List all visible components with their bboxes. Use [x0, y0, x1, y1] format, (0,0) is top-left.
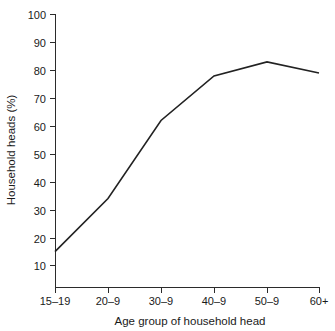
x-tick-label: 20–9	[96, 295, 120, 307]
x-tick-label: 50–9	[255, 295, 279, 307]
y-tick-label: 30	[34, 205, 46, 217]
x-tick-label: 30–9	[149, 295, 173, 307]
y-tick-label: 50	[34, 149, 46, 161]
y-tick-label: 80	[34, 65, 46, 77]
chart-plot-area: 100 90 80 70 60 50 40 30 20 10 15–19 20–…	[0, 0, 335, 331]
x-axis-title: Age group of household head	[115, 315, 266, 327]
x-tick-label: 15–19	[40, 295, 71, 307]
y-tick-label: 10	[34, 260, 46, 272]
line-chart-figure: 100 90 80 70 60 50 40 30 20 10 15–19 20–…	[0, 0, 335, 331]
y-tick-label: 20	[34, 233, 46, 245]
y-tick-label: 40	[34, 177, 46, 189]
y-tick-label: 90	[34, 37, 46, 49]
y-axis-title: Household heads (%)	[5, 95, 17, 206]
x-axis-ticks	[56, 288, 320, 293]
y-axis-tick-labels: 100 90 80 70 60 50 40 30 20 10	[28, 9, 46, 272]
data-series-line	[55, 62, 319, 252]
x-tick-label: 60+	[310, 295, 329, 307]
x-tick-label: 40–9	[202, 295, 226, 307]
y-tick-label: 100	[28, 9, 46, 21]
x-axis-tick-labels: 15–19 20–9 30–9 40–9 50–9 60+	[40, 295, 329, 307]
y-axis-ticks	[50, 15, 55, 266]
y-tick-label: 60	[34, 121, 46, 133]
y-tick-label: 70	[34, 93, 46, 105]
